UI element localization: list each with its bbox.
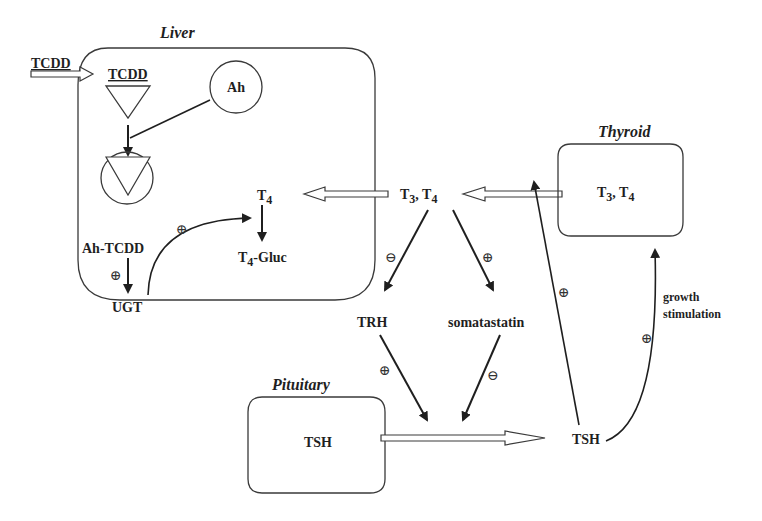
thyroid-t3-t4-label: T3, T4 bbox=[597, 185, 634, 204]
ah-tcdd-label: Ah-TCDD bbox=[82, 241, 144, 256]
ugt-to-t4-curve bbox=[148, 218, 250, 295]
stimulation-label: stimulation bbox=[663, 307, 721, 321]
pituitary-title: Pituitary bbox=[271, 376, 331, 394]
tcdd-bound-triangle bbox=[106, 157, 150, 195]
thyroid-title: Thyroid bbox=[598, 123, 651, 141]
liver-title: Liver bbox=[159, 24, 195, 41]
tsh-release-arrow bbox=[381, 431, 545, 445]
growth-label: growth bbox=[663, 290, 700, 304]
ugt-induction-sign: ⊕ bbox=[110, 268, 122, 283]
t3-t4-center-label: T3, T4 bbox=[400, 187, 437, 206]
trh-label: TRH bbox=[357, 315, 387, 330]
thyroid-compartment: Thyroid T3, T4 bbox=[558, 123, 683, 236]
tcdd-ligand-label: TCDD bbox=[108, 67, 148, 82]
tsh-circulating-label: TSH bbox=[572, 432, 600, 447]
tsh-to-t3t4-arrow bbox=[534, 182, 579, 425]
ah-binding-line bbox=[130, 100, 210, 138]
thyroid-to-t3t4-arrow bbox=[463, 187, 562, 201]
ugt-to-t4-sign: ⊕ bbox=[176, 222, 188, 237]
pituitary-tsh-label: TSH bbox=[304, 435, 332, 450]
tsh-to-t3t4-sign: ⊕ bbox=[558, 285, 570, 300]
pituitary-compartment: Pituitary TSH bbox=[248, 376, 385, 493]
tcdd-input-label: TCDD bbox=[31, 56, 71, 71]
t4-liver-label: T4 bbox=[257, 188, 272, 207]
growth-stimulation-sign: ⊕ bbox=[641, 331, 653, 346]
tcdd-triangle bbox=[106, 86, 150, 118]
t3t4-to-somatostatin-sign: ⊕ bbox=[482, 250, 494, 265]
t3t4-to-trh-sign: ⊖ bbox=[385, 250, 397, 265]
t4-gluc-label: T4-Gluc bbox=[238, 250, 287, 269]
trh-to-tsh-sign: ⊕ bbox=[379, 363, 391, 378]
ah-receptor-label: Ah bbox=[227, 80, 245, 95]
somatostatin-label: somatastatin bbox=[448, 315, 524, 330]
somatostatin-to-tsh-sign: ⊖ bbox=[487, 368, 499, 383]
ugt-label: UGT bbox=[112, 300, 143, 315]
thyroid-hormone-pathway-diagram: Liver TCDD TCDD Ah Ah-TCDD ⊕ UGT ⊕ T4 T4… bbox=[0, 0, 762, 521]
